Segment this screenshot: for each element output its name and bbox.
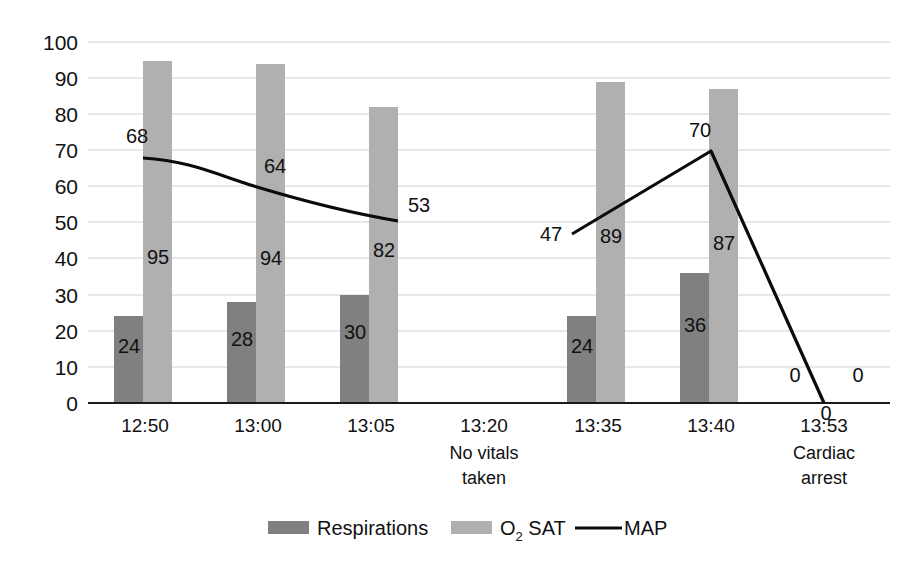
chart-background (0, 0, 913, 582)
y-tick-40: 40 (55, 247, 78, 270)
data-label-respirations-1340: 36 (684, 314, 706, 336)
bar-respirations-1250 (114, 316, 143, 403)
x-tick-1305: 13:05 (347, 415, 395, 436)
data-label-o2sat-1250: 95 (147, 246, 169, 268)
data-label-map-1340: 70 (689, 119, 711, 141)
x-tick-1300: 13:00 (234, 415, 282, 436)
data-label-map-1335: 47 (540, 223, 562, 245)
bar-respirations-1300 (227, 302, 256, 403)
y-tick-20: 20 (55, 320, 78, 343)
x-tick-1335: 13:35 (574, 415, 622, 436)
y-tick-90: 90 (55, 67, 78, 90)
y-tick-70: 70 (55, 139, 78, 162)
x-tick-1250: 12:50 (121, 415, 169, 436)
y-tick-80: 80 (55, 103, 78, 126)
data-label-map-1250: 68 (126, 125, 148, 147)
data-label-o2sat-1340: 87 (713, 232, 735, 254)
x-note-1320-line1: No vitals (449, 443, 518, 463)
y-tick-10: 10 (55, 356, 78, 379)
data-label-o2sat-1335: 89 (600, 225, 622, 247)
y-tick-0: 0 (66, 392, 78, 415)
bar-respirations-1335 (567, 316, 596, 403)
bar-respirations-1340 (680, 273, 709, 403)
legend-swatch-respirations (268, 521, 309, 534)
x-note-1353-line2: arrest (801, 468, 847, 488)
legend-o2-tail: SAT (523, 517, 566, 539)
legend-o2-main: O (500, 517, 516, 539)
data-label-map-1305: 53 (408, 194, 430, 216)
data-label-respirations-1300: 28 (231, 328, 253, 350)
x-tick-1353: 13:53 (800, 415, 848, 436)
data-label-respirations-1335: 24 (571, 335, 593, 357)
legend-label-map: MAP (624, 517, 667, 539)
data-label-o2sat-1300: 94 (260, 247, 282, 269)
bar-respirations-1305 (340, 295, 369, 403)
x-tick-1320: 13:20 (460, 415, 508, 436)
data-label-map-1300: 64 (264, 155, 286, 177)
vital-signs-chart: 100 90 80 70 60 50 40 30 20 10 0 24 28 3… (0, 0, 913, 582)
y-tick-60: 60 (55, 175, 78, 198)
x-note-1353-line1: Cardiac (793, 443, 855, 463)
data-label-respirations-1353: 0 (789, 364, 800, 386)
chart-svg: 100 90 80 70 60 50 40 30 20 10 0 24 28 3… (0, 0, 913, 582)
data-label-o2sat-1353: 0 (852, 364, 863, 386)
legend-o2-subscript: 2 (516, 529, 523, 544)
y-tick-50: 50 (55, 211, 78, 234)
legend-label-respirations: Respirations (317, 517, 428, 539)
data-label-o2sat-1305: 82 (373, 239, 395, 261)
x-tick-1340: 13:40 (687, 415, 735, 436)
y-tick-100: 100 (43, 31, 78, 54)
data-label-respirations-1250: 24 (118, 335, 140, 357)
bar-o2sat-1250 (143, 61, 172, 403)
y-tick-30: 30 (55, 284, 78, 307)
bar-o2sat-1300 (256, 64, 285, 403)
legend-swatch-o2-sat (451, 521, 492, 534)
data-label-respirations-1305: 30 (344, 321, 366, 343)
x-note-1320-line2: taken (462, 468, 506, 488)
